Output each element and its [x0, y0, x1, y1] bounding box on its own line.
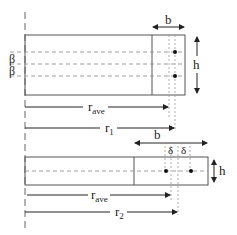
top-height-label: h [193, 57, 200, 72]
bottom-point-left [164, 169, 168, 173]
top-beam [25, 35, 185, 95]
bottom-height-label: h [219, 163, 226, 178]
bottom-rave-label: rave [91, 187, 108, 204]
beam-geometry-diagram: b h β β rave r1 b δ δ h rave r [0, 0, 237, 235]
delta-label-right: δ [181, 144, 186, 156]
bottom-panel: b δ δ h rave r2 [25, 127, 226, 221]
beta-label-lower: β [9, 64, 15, 78]
top-point-upper [173, 50, 177, 54]
bottom-width-label: b [154, 127, 161, 142]
delta-label-left: δ [168, 144, 173, 156]
r1-label: r1 [105, 120, 114, 137]
top-rave-label: rave [88, 99, 105, 116]
top-width-label: b [165, 12, 172, 27]
bottom-point-right [189, 169, 193, 173]
top-point-lower [173, 74, 177, 78]
top-panel: b h β β rave r1 [9, 12, 200, 137]
r2-label: r2 [115, 204, 124, 221]
